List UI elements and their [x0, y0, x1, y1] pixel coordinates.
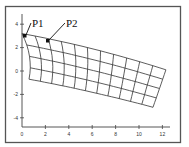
- mesh-column-line: [119, 58, 127, 99]
- annotation-p1: P1: [23, 17, 44, 38]
- x-tick-label: 6: [91, 131, 94, 137]
- mesh-column-line: [131, 62, 140, 102]
- x-tick-label: 4: [67, 131, 70, 137]
- y-tick-label: 2: [15, 44, 18, 50]
- mesh-column-line: [48, 39, 53, 84]
- x-tick-label: 8: [114, 131, 117, 137]
- mesh-grid: [22, 34, 166, 108]
- point-marker: [23, 34, 27, 38]
- axes: 024681012 420-2-4: [14, 14, 170, 137]
- mesh-column-line: [153, 70, 166, 108]
- leader-line: [49, 23, 65, 40]
- point-marker: [46, 39, 50, 43]
- y-tick-label: -2: [14, 91, 19, 97]
- point-label: P1: [32, 17, 44, 29]
- y-tick-label: 4: [15, 21, 18, 27]
- mesh-row-line: [22, 34, 166, 70]
- y-tick-label: 0: [15, 68, 18, 74]
- x-tick-label: 0: [21, 131, 24, 137]
- x-tick-label: 2: [44, 131, 47, 137]
- mesh-figure: 024681012 420-2-4 P1P2: [0, 0, 189, 147]
- leader-line: [26, 23, 31, 35]
- mesh-column-line: [142, 66, 153, 105]
- point-annotations: P1P2: [23, 17, 78, 43]
- point-label: P2: [66, 17, 78, 29]
- x-tick-label: 12: [160, 131, 166, 137]
- y-tick-label: -4: [14, 115, 19, 121]
- x-tick-label: 10: [136, 131, 142, 137]
- mesh-row-line: [27, 45, 163, 79]
- mesh-column-line: [22, 34, 30, 80]
- annotation-p2: P2: [46, 17, 78, 43]
